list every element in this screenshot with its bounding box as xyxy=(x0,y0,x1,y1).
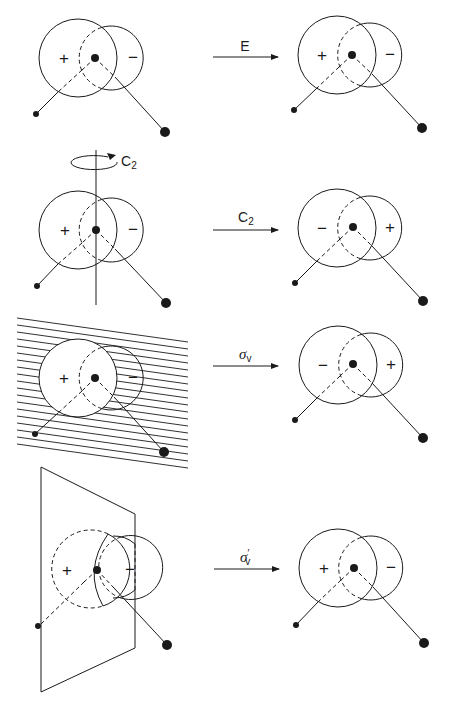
operation-label: E xyxy=(240,38,249,54)
operation-label: σv xyxy=(239,346,251,364)
lobe-sign-left: + xyxy=(60,221,70,240)
row-sigma-v-before: + − xyxy=(17,318,188,468)
row-sigma-v-after: − + xyxy=(292,326,428,443)
lobe-sign-right: + xyxy=(386,355,396,374)
arrow-c2: C2 xyxy=(213,209,278,230)
operation-label: σ′v xyxy=(240,548,250,567)
row-c2-after: − + xyxy=(292,189,428,306)
arrow-sigma-v: σv xyxy=(213,346,278,366)
lobe-sign-right: − xyxy=(386,558,396,577)
lobe-sign-right: − xyxy=(128,48,138,67)
lobe-sign-right: − xyxy=(128,368,138,387)
mirror-plane-vertical xyxy=(41,467,135,692)
symmetry-operations-diagram: + − E + − C2 + − xyxy=(0,0,455,708)
row-sigma-v-prime-after: + − xyxy=(293,529,429,648)
row-c2-before: C2 + − xyxy=(34,150,171,308)
central-atom xyxy=(91,54,99,62)
lobe-sign-right: − xyxy=(125,560,135,579)
axis-label: C2 xyxy=(121,153,137,171)
large-atom xyxy=(160,127,170,137)
row-identity-after: + − xyxy=(291,16,427,133)
bond-right xyxy=(115,77,165,132)
arrow-sigma-v-prime: σ′v xyxy=(214,548,279,569)
lobe-sign-left: + xyxy=(319,559,329,578)
lobe-sign-right: + xyxy=(385,218,395,237)
row-sigma-v-prime-before: + − xyxy=(35,467,172,692)
lobe-sign-left: + xyxy=(317,46,327,65)
small-atom xyxy=(33,111,39,117)
lobe-sign-right: − xyxy=(128,220,138,239)
bond-left xyxy=(36,92,58,114)
operation-label: C2 xyxy=(238,209,254,227)
lobe-sign-left: − xyxy=(318,356,328,375)
lobe-sign-left: + xyxy=(62,561,72,580)
lobe-sign-left: + xyxy=(59,369,69,388)
lobe-sign-left: + xyxy=(59,49,69,68)
p-orbital-large-lobe xyxy=(39,19,117,97)
lobe-sign-left: − xyxy=(317,219,327,238)
row-identity-before: + − xyxy=(33,19,170,137)
lobe-sign-right: − xyxy=(385,45,395,64)
arrow-identity: E xyxy=(213,38,278,57)
